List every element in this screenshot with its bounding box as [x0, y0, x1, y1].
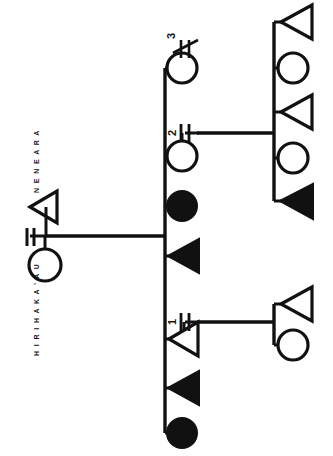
offspring-group-marriage-1	[197, 287, 312, 360]
marriage-2-group	[181, 124, 199, 142]
sibling-6-triangle-filled[interactable]	[168, 371, 199, 405]
sibling-3-circle-filled[interactable]	[167, 191, 197, 221]
child-2-1-triangle-open[interactable]	[281, 5, 312, 39]
kinship-diagram-canvas	[0, 0, 333, 456]
label-neneara: N E N E A R A	[33, 129, 40, 193]
child-2-5-triangle-filled[interactable]	[280, 184, 313, 219]
child-2-2-circle-open[interactable]	[278, 53, 308, 83]
sibling-2-circle-open[interactable]	[167, 141, 197, 171]
marriage-number-1: 1	[166, 319, 178, 325]
sibling-7-circle-filled[interactable]	[167, 418, 197, 448]
child-1-2-circle-open[interactable]	[278, 330, 308, 360]
offspring-group-marriage-2	[197, 5, 313, 219]
sibling-symbols	[167, 53, 199, 448]
child-2-3-triangle-open[interactable]	[281, 95, 312, 129]
marriage-number-3: 3	[165, 33, 177, 39]
kinship-diagram: N E N E A R A H I R I H A K A ' A U 3 2 …	[0, 0, 333, 456]
marriage-number-2: 2	[166, 130, 178, 136]
label-hirihakaau: H I R I H A K A ' A U	[33, 263, 40, 356]
marriage-1-group	[181, 313, 199, 331]
person-neneara-triangle[interactable]	[30, 191, 57, 223]
child-2-4-circle-open[interactable]	[278, 143, 308, 173]
child-1-1-triangle-open[interactable]	[281, 287, 312, 321]
sibling-4-triangle-filled[interactable]	[168, 239, 199, 273]
marriage-3-dissolved-slash	[173, 40, 198, 53]
